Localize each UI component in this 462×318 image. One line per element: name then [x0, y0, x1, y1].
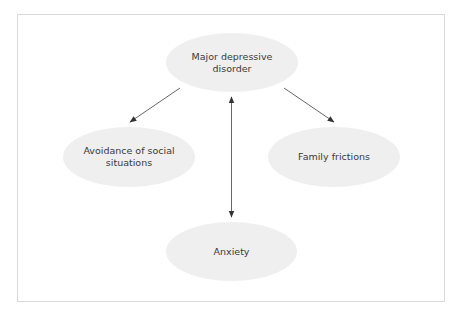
node-avoidance-of-social-situations: Avoidance of social situations [63, 127, 195, 187]
node-label-line: Major depressive [192, 51, 273, 63]
node-label: Family frictions [298, 151, 370, 163]
edge-mdd-to-avoidance-arrow [130, 88, 180, 122]
edge-mdd-to-family-arrow [284, 88, 334, 122]
node-label: Anxiety [214, 246, 250, 258]
node-major-depressive-disorder: Major depressive disorder [166, 33, 298, 92]
node-family-frictions: Family frictions [268, 127, 400, 187]
node-label-line: Avoidance of social [83, 145, 174, 157]
node-anxiety: Anxiety [166, 222, 297, 281]
node-label-line: situations [83, 157, 174, 169]
node-label-line: disorder [192, 63, 273, 75]
